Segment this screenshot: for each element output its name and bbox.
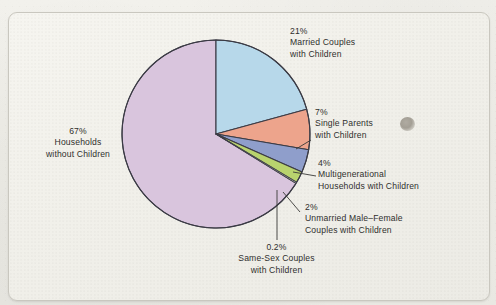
label-same-sex-line1: Same-Sex Couples [214,253,339,264]
label-unmarried-male-female: 2% Unmarried Male–Female Couples with Ch… [305,202,403,236]
label-single-parents: 7% Single Parents with Children [315,107,373,141]
label-single-parents-line1: Single Parents [315,118,373,129]
label-same-sex-line2: with Children [214,265,339,276]
label-multigenerational-line2: Households with Children [318,181,419,192]
label-households-percent: 67% [22,126,134,137]
label-single-parents-line2: with Children [315,130,373,141]
label-multigenerational: 4% Multigenerational Households with Chi… [318,158,419,192]
label-multigenerational-line1: Multigenerational [318,169,419,180]
pie-final [122,40,310,228]
label-married-couples: 21% Married Couples with Children [290,26,355,60]
label-unmarried-percent: 2% [305,202,403,213]
label-unmarried-line1: Unmarried Male–Female [305,213,403,224]
label-unmarried-line2: Couples with Children [305,225,403,236]
label-households-line1: Households [22,137,134,148]
label-same-sex-percent: 0.2% [214,242,339,253]
label-married-line1: Married Couples [290,37,355,48]
label-married-line2: with Children [290,49,355,60]
label-households-line2: without Children [22,149,134,160]
label-married-percent: 21% [290,26,355,37]
label-same-sex-couples: 0.2% Same-Sex Couples with Children [214,242,339,276]
scanned-page: 21% Married Couples with Children 7% Sin… [0,0,496,305]
label-households-without-children: 67% Households without Children [22,126,134,160]
label-multigenerational-percent: 4% [318,158,419,169]
leader-line-unmarried [283,192,300,212]
gray-smudge-artifact [400,117,415,131]
label-single-parents-percent: 7% [315,107,373,118]
